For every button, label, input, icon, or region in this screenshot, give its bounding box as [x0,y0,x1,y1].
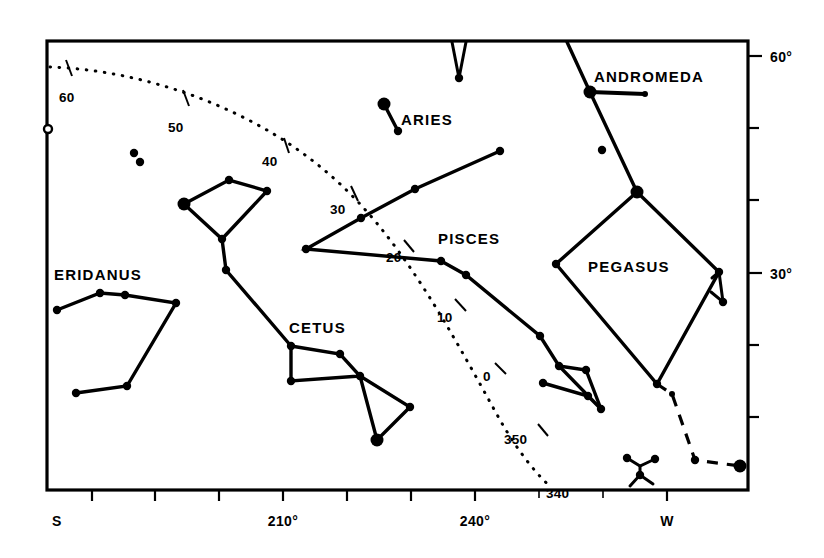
pegasus-square-lines [556,192,719,384]
ecliptic-label-340: 340 [546,486,569,501]
star-marker [631,186,644,199]
star-marker [72,389,80,397]
star-chart-svg: S 210° 240° W 60° 30° [0,0,824,558]
star-marker [130,149,138,157]
left-edge-marker-icon [44,125,52,133]
star-marker [287,377,295,385]
star-marker [455,74,463,82]
ecliptic-tick [404,240,414,252]
star-marker [302,245,310,253]
star-marker [406,403,414,411]
star-marker [336,350,344,358]
star-marker [96,289,104,297]
star-marker [719,298,727,306]
star-marker [642,91,648,97]
andromeda-chain-lines [567,42,637,192]
bottom-axis-labels: S 210° 240° W [52,513,674,529]
star-marker [598,146,606,154]
ecliptic-label-350: 350 [504,432,527,447]
axis-label-west: W [660,513,674,529]
perseus-v-lines [452,42,466,78]
ecliptic-tick [455,299,466,311]
ecliptic-label-40: 40 [262,154,278,169]
label-eridanus: ERIDANUS [54,266,142,283]
axis-label-210: 210° [268,513,299,529]
bottom-axis [92,490,667,501]
grus-upper-lines [627,458,655,466]
star-marker [462,271,470,279]
star-marker [669,391,675,397]
right-axis-labels: 60° 30° [770,49,792,282]
star-marker [734,460,747,473]
star-marker [218,235,226,243]
star-marker [552,260,560,268]
star-marker [263,187,271,195]
star-marker [536,332,544,340]
label-pisces: PISCES [438,230,500,247]
ecliptic-tick [284,138,289,153]
star-marker [636,471,644,479]
star-marker [496,147,504,155]
star-marker [715,268,723,276]
axis-label-60deg: 60° [770,49,792,65]
star-marker [582,366,590,374]
star-marker [222,266,230,274]
ecliptic-label-60: 60 [59,90,75,105]
ecliptic-label-0: 0 [483,369,491,384]
right-axis [748,56,762,417]
ecliptic-label-50: 50 [168,120,184,135]
star-marker [651,455,659,463]
star-marker [653,380,661,388]
ecliptic-tick [183,90,189,106]
label-andromeda: ANDROMEDA [594,68,704,85]
axis-label-south: S [52,513,62,529]
label-pegasus: PEGASUS [588,258,670,275]
star-marker [555,362,563,370]
star-marker [225,176,233,184]
star-marker [287,342,295,350]
star-marker [411,185,419,193]
dashed-chain [657,384,740,466]
star-marker [357,214,365,222]
star-marker [584,86,597,99]
ecliptic-tick [538,424,548,436]
star-marker [123,382,131,390]
ecliptic-tick [351,186,358,201]
label-aries: ARIES [401,111,453,128]
trapezium-lines [184,180,267,239]
axis-label-240: 240° [460,513,491,529]
ecliptic-tick [495,363,506,374]
star-marker [394,127,402,135]
star-marker [378,98,391,111]
star-marker [597,405,605,413]
ecliptic-label-10: 10 [437,310,453,325]
star-marker [172,299,180,307]
star-marker [53,306,61,314]
star-marker [584,392,592,400]
star-chart: S 210° 240° W 60° 30° [0,0,824,558]
star-marker [623,454,631,462]
andromeda-arm-line [590,92,645,94]
star-marker [136,158,144,166]
star-marker [539,379,547,387]
cetus-body-lines [291,346,360,381]
eridanus-lines [57,293,176,393]
star-marker [121,291,129,299]
ecliptic-label-30: 30 [330,202,346,217]
star-marker [437,257,445,265]
star-marker [371,434,384,447]
star-marker [178,198,191,211]
pisces-cord-lines [306,151,601,409]
star-marker [356,372,364,380]
axis-label-30deg: 30° [770,266,792,282]
cetus-triangle-lines [360,376,410,440]
constellation-labels: ANDROMEDA ARIES PISCES PEGASUS ERIDANUS … [54,68,704,336]
label-cetus: CETUS [289,319,346,336]
trapezium-tail-lines [222,239,291,346]
dashed-chain-line [657,384,740,466]
star-marker [691,456,699,464]
